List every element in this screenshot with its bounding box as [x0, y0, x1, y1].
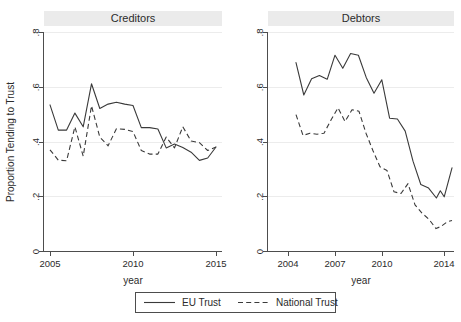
x-tick-label-left-0: 2005: [39, 258, 60, 269]
chart-figure: Creditors 0 .2 .4 .6 .8: [0, 0, 461, 322]
two-panel-line-chart: Creditors 0 .2 .4 .6 .8: [0, 0, 461, 322]
x-tick-label-left-2: 2015: [205, 258, 226, 269]
y-axis-title: Proportion Tending to Trust: [5, 82, 16, 202]
y-tick-label-right-0: 0: [254, 249, 265, 254]
panel-title-debtors: Debtors: [342, 12, 381, 24]
x-tick-label-right-2: 2010: [371, 258, 392, 269]
y-tick-label-right-08: .8: [254, 29, 265, 37]
y-tick-label-right-04: .4: [254, 138, 265, 146]
x-axis-title-left: year: [123, 275, 143, 286]
y-tick-label-right-06: .6: [254, 83, 265, 91]
x-tick-label-right-1: 2007: [324, 258, 345, 269]
x-axis-title-right: year: [351, 275, 371, 286]
y-tick-label-right-02: .2: [254, 193, 265, 201]
y-tick-label-0: 0: [30, 249, 41, 254]
x-tick-label-left-1: 2010: [122, 258, 143, 269]
y-tick-label-04: .4: [30, 138, 41, 146]
y-tick-label-08: .8: [30, 29, 41, 37]
y-tick-label-06: .6: [30, 83, 41, 91]
legend-label-eu-trust: EU Trust: [182, 297, 221, 308]
y-tick-label-02: .2: [30, 193, 41, 201]
legend-label-national-trust: National Trust: [276, 297, 338, 308]
chart-background: [0, 0, 461, 322]
x-tick-label-right-0: 2004: [277, 258, 298, 269]
x-tick-label-right-3: 2014: [433, 258, 454, 269]
panel-title-creditors: Creditors: [111, 12, 156, 24]
chart-legend: EU Trust National Trust: [136, 293, 338, 313]
